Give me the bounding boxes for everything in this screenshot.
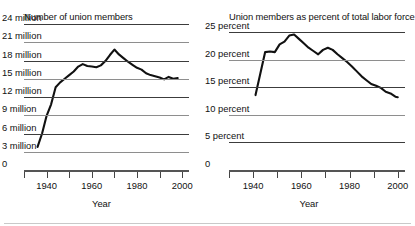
gridline-y-18 bbox=[24, 61, 189, 62]
x-tick-1940 bbox=[47, 172, 48, 178]
chart-title-right: Union members as percent of total labor … bbox=[229, 11, 415, 22]
x-tick-1960 bbox=[301, 172, 302, 178]
x-axis-label-left: Year bbox=[0, 198, 203, 209]
x-tick-label-1980: 1980 bbox=[127, 180, 148, 191]
y-tick-label-18: 18 million bbox=[2, 49, 42, 61]
gridline-y-9 bbox=[24, 115, 189, 116]
x-tick-label-2000: 2000 bbox=[387, 180, 408, 191]
x-tick-2000 bbox=[398, 172, 399, 178]
y-tick-label-3: 3 million bbox=[2, 140, 36, 152]
plot-area-left: 24 million21 million18 million15 million… bbox=[24, 24, 189, 170]
chart-panel-union-members-percent: Union members as percent of total labor … bbox=[203, 0, 415, 226]
gridline-y-20 bbox=[229, 60, 405, 61]
y-tick-label-20: 20 percent bbox=[205, 48, 249, 60]
gridline-y-24 bbox=[24, 24, 189, 25]
y-tick-label-0: 0 bbox=[2, 158, 7, 170]
y-tick-label-5: 5 percent bbox=[205, 130, 244, 142]
chart-panel-union-members-count: Number of union members 24 million21 mil… bbox=[0, 0, 203, 226]
gridline-y-25 bbox=[229, 32, 405, 33]
x-minor-tick-1930 bbox=[229, 172, 230, 178]
x-axis-label-right: Year bbox=[203, 198, 415, 209]
plot-area-right: 25 percent20 percent15 percent10 percent… bbox=[229, 24, 405, 170]
x-tick-1980 bbox=[137, 172, 138, 178]
gridline-y-15 bbox=[229, 87, 405, 88]
series-line-union-members-percent bbox=[229, 24, 405, 170]
x-minor-tick-1970 bbox=[325, 172, 326, 178]
x-minor-tick-1950 bbox=[277, 172, 278, 178]
x-tick-label-1960: 1960 bbox=[81, 180, 102, 191]
x-tick-label-1980: 1980 bbox=[339, 180, 360, 191]
union-membership-figure: Number of union members 24 million21 mil… bbox=[0, 0, 415, 226]
y-tick-label-9: 9 million bbox=[2, 103, 36, 115]
y-tick-label-0: 0 bbox=[205, 158, 210, 170]
y-tick-label-15: 15 million bbox=[2, 67, 42, 79]
x-minor-tick-1930 bbox=[24, 172, 25, 178]
gridline-y-6 bbox=[24, 134, 189, 135]
x-minor-tick-1970 bbox=[114, 172, 115, 178]
x-tick-label-2000: 2000 bbox=[172, 180, 193, 191]
y-tick-label-10: 10 percent bbox=[205, 103, 249, 115]
y-tick-label-21: 21 million bbox=[2, 30, 42, 42]
x-tick-label-1940: 1940 bbox=[243, 180, 264, 191]
x-axis-line: 1940196019802000 bbox=[24, 170, 189, 172]
x-tick-1980 bbox=[350, 172, 351, 178]
gridline-y-10 bbox=[229, 115, 405, 116]
gridline-y-5 bbox=[229, 142, 405, 143]
gridline-y-12 bbox=[24, 97, 189, 98]
x-minor-tick-1990 bbox=[374, 172, 375, 178]
y-tick-label-6: 6 million bbox=[2, 122, 36, 134]
x-tick-label-1940: 1940 bbox=[36, 180, 57, 191]
y-tick-label-15: 15 percent bbox=[205, 75, 249, 87]
figure-bottom-divider bbox=[4, 223, 411, 224]
gridline-y-15 bbox=[24, 79, 189, 80]
y-tick-label-12: 12 million bbox=[2, 85, 42, 97]
x-axis-line: 1940196019802000 bbox=[229, 170, 405, 172]
x-minor-tick-1990 bbox=[160, 172, 161, 178]
y-tick-label-24: 24 million bbox=[2, 12, 42, 24]
x-minor-tick-1950 bbox=[69, 172, 70, 178]
gridline-y-21 bbox=[24, 42, 189, 43]
gridline-y-3 bbox=[24, 152, 189, 153]
x-tick-1940 bbox=[253, 172, 254, 178]
x-tick-label-1960: 1960 bbox=[291, 180, 312, 191]
x-tick-1960 bbox=[92, 172, 93, 178]
x-tick-2000 bbox=[182, 172, 183, 178]
y-tick-label-25: 25 percent bbox=[205, 20, 249, 32]
